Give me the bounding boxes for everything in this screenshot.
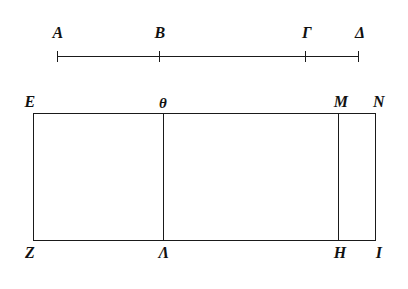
segment-label-delta: Δ <box>355 25 365 41</box>
rectangle-label-n: N <box>373 94 385 110</box>
rectangle-divider-m-h <box>338 113 339 241</box>
segment-tick-delta <box>358 51 359 62</box>
segment-label-b: B <box>155 25 166 41</box>
rectangle-label-theta: θ <box>159 95 167 111</box>
segment-label-a: A <box>53 25 64 41</box>
rectangle-right-edge <box>375 113 376 241</box>
segment-baseline <box>57 56 359 57</box>
rectangle-label-e: E <box>25 94 36 110</box>
segment-tick-b <box>159 51 160 62</box>
segment-label-gamma: Γ <box>302 25 312 41</box>
rectangle-label-i: I <box>376 245 382 261</box>
geometry-figure: A B Γ Δ E θ M N Z Λ H I <box>0 0 408 289</box>
rectangle-label-m: M <box>334 94 348 110</box>
rectangle-bottom-edge <box>33 240 376 241</box>
rectangle-divider-theta-lambda <box>163 113 164 241</box>
rectangle-left-edge <box>33 113 34 241</box>
segment-tick-gamma <box>305 51 306 62</box>
rectangle-label-lambda: Λ <box>159 245 170 261</box>
rectangle-label-z: Z <box>25 245 35 261</box>
rectangle-label-h: H <box>334 245 347 261</box>
segment-tick-a <box>57 51 58 62</box>
rectangle-top-edge <box>33 113 376 114</box>
